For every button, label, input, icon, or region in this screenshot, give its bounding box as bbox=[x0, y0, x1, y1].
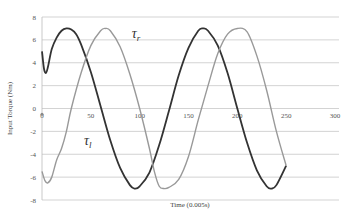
x-tick-label: 50 bbox=[87, 112, 95, 120]
origin-marker bbox=[41, 113, 44, 116]
y-tick-label: -2 bbox=[30, 128, 36, 136]
curve-label: τl bbox=[84, 133, 92, 150]
y-tick-label: 2 bbox=[33, 82, 37, 90]
x-tick-label: 100 bbox=[134, 112, 145, 120]
curve-label: τr bbox=[132, 26, 141, 43]
y-tick-label: 0 bbox=[33, 105, 37, 113]
x-tick-label: 150 bbox=[183, 112, 194, 120]
x-axis-ticks: 050100150200250300 bbox=[40, 112, 341, 120]
y-tick-label: -8 bbox=[30, 197, 36, 205]
y-axis-ticks: 86420-2-4-6-8 bbox=[30, 14, 36, 205]
y-tick-label: 6 bbox=[33, 36, 37, 44]
y-tick-label: -6 bbox=[30, 174, 36, 182]
x-tick-label: 250 bbox=[281, 112, 292, 120]
y-tick-label: 8 bbox=[33, 14, 37, 22]
line-chart: 86420-2-4-6-8 050100150200250300 Input T… bbox=[0, 0, 359, 220]
y-tick-label: 4 bbox=[33, 59, 37, 67]
x-axis-label: Time (0.005s) bbox=[170, 201, 210, 209]
y-tick-label: -4 bbox=[30, 151, 36, 159]
y-axis-label: Input Torque (Nm) bbox=[6, 81, 14, 135]
x-tick-label: 300 bbox=[330, 112, 341, 120]
